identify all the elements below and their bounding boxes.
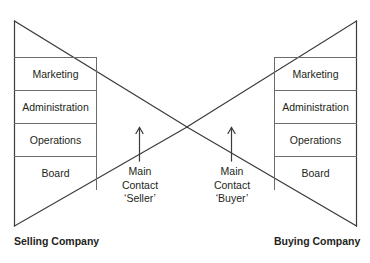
right-main-contact-label: Main Contact ‘Buyer’ xyxy=(192,165,272,206)
diagram-canvas xyxy=(0,0,370,263)
right-main-contact-line1: Main xyxy=(192,165,272,179)
right-department-board: Board xyxy=(274,168,357,179)
selling-company-label: Selling Company xyxy=(14,236,99,247)
left-department-board: Board xyxy=(14,168,97,179)
right-main-contact-line3: ‘Buyer’ xyxy=(192,192,272,206)
right-main-contact-line2: Contact xyxy=(192,179,272,193)
left-department-marketing: Marketing xyxy=(14,69,97,80)
left-main-contact-line3: ‘Seller’ xyxy=(100,192,180,206)
buying-company-label: Buying Company xyxy=(274,236,360,247)
left-main-contact-line2: Contact xyxy=(100,179,180,193)
left-main-contact-label: Main Contact ‘Seller’ xyxy=(100,165,180,206)
right-department-administration: Administration xyxy=(274,102,357,113)
bowtie-diagram: Marketing Administration Operations Boar… xyxy=(0,0,370,263)
left-department-administration: Administration xyxy=(14,102,97,113)
left-department-operations: Operations xyxy=(14,135,97,146)
right-department-marketing: Marketing xyxy=(274,69,357,80)
right-department-operations: Operations xyxy=(274,135,357,146)
left-main-contact-line1: Main xyxy=(100,165,180,179)
